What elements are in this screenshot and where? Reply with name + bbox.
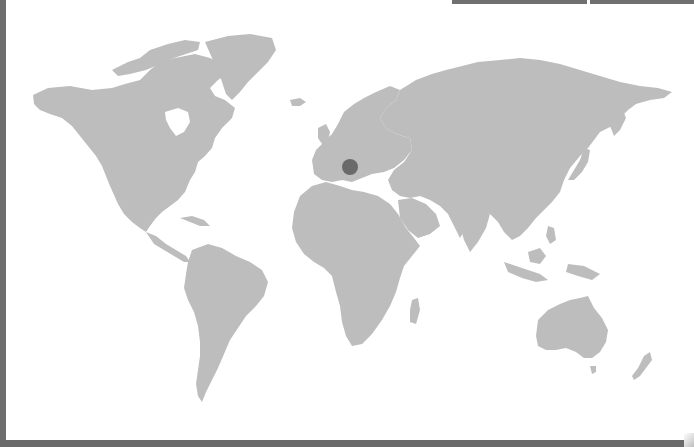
borneo [528, 248, 546, 264]
continent-south-america [184, 244, 268, 402]
frame-border-bottom [0, 440, 694, 447]
map-frame [0, 0, 694, 447]
world-map-svg [6, 4, 694, 440]
madagascar [410, 298, 420, 324]
philippines [546, 226, 556, 244]
new-guinea [566, 264, 600, 280]
new-zealand [632, 352, 652, 380]
continent-north-america [33, 54, 235, 232]
southeast-asia-islands [504, 262, 548, 282]
indian-subcontinent [460, 210, 490, 252]
location-marker[interactable] [342, 159, 358, 175]
tasmania [590, 366, 596, 374]
caribbean-islands [180, 216, 210, 226]
kamchatka [610, 108, 626, 136]
central-america [146, 232, 190, 262]
continent-australia [536, 296, 608, 358]
world-map [6, 4, 694, 440]
iceland [290, 98, 306, 106]
